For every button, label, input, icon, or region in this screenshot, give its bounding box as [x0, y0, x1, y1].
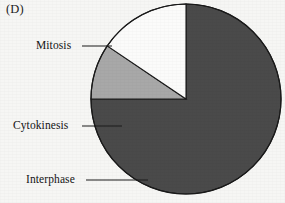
slice-label-mitosis: Mitosis: [36, 39, 71, 51]
panel-label: (D): [6, 2, 24, 17]
pie-slices: [91, 4, 281, 194]
slice-label-cytokinesis: Cytokinesis: [13, 119, 68, 131]
slice-label-interphase: Interphase: [26, 173, 75, 185]
pie-chart-figure: (D) Mitosis Cytokinesis Interphase: [0, 0, 285, 203]
